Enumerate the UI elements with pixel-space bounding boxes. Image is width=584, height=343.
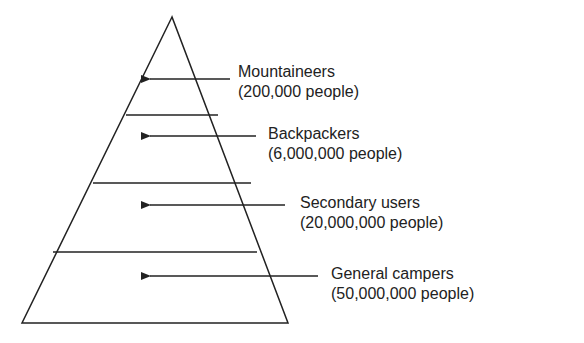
tier-label-mountaineers: Mountaineers (200,000 people): [238, 62, 359, 102]
tier-name: Backpackers: [268, 124, 402, 144]
tier-count: (6,000,000 people): [268, 144, 402, 164]
tier-label-backpackers: Backpackers (6,000,000 people): [268, 124, 402, 164]
pyramid-diagram: Mountaineers (200,000 people) Backpacker…: [0, 0, 584, 343]
tier-name: Secondary users: [300, 193, 443, 213]
tier-label-general-campers: General campers (50,000,000 people): [331, 264, 474, 304]
tier-count: (200,000 people): [238, 82, 359, 102]
pyramid-graphic: [0, 0, 584, 343]
tier-count: (50,000,000 people): [331, 284, 474, 304]
tier-name: Mountaineers: [238, 62, 359, 82]
tier-count: (20,000,000 people): [300, 213, 443, 233]
tier-name: General campers: [331, 264, 474, 284]
tier-label-secondary-users: Secondary users (20,000,000 people): [300, 193, 443, 233]
